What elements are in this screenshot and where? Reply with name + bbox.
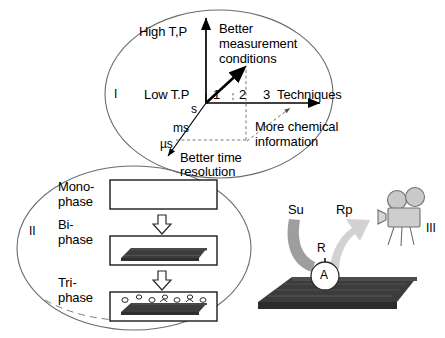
region-three-roman: III xyxy=(426,222,436,235)
triphase-label-line2: phase xyxy=(58,291,93,306)
progress-arrow xyxy=(206,69,243,103)
triphase-slab xyxy=(121,303,207,315)
axis-horizontal-label: Techniques xyxy=(277,88,342,103)
time-tick-us: µs xyxy=(160,138,173,151)
movie-camera-icon xyxy=(378,188,425,247)
monophase-label-line2: phase xyxy=(58,195,93,210)
reactant-arrow xyxy=(288,219,315,272)
intermediate-label: R xyxy=(317,242,326,255)
technique-tick-2: 2 xyxy=(239,88,246,103)
technique-tick-3: 3 xyxy=(263,88,270,103)
down-arrow-2 xyxy=(153,271,171,290)
biphase-label-line1: Bi- xyxy=(58,218,74,233)
biphase-label-line2: phase xyxy=(58,233,93,248)
down-arrow-1 xyxy=(153,215,171,234)
triphase-label-line1: Tri- xyxy=(58,276,77,291)
measurement-callout-line3: conditions xyxy=(219,52,277,67)
product-label: Rp xyxy=(336,203,352,218)
time-tick-s: s xyxy=(191,103,197,116)
chemical-callout-line1: More chemical xyxy=(255,120,338,135)
region-two-roman: II xyxy=(29,225,35,238)
axis-vertical-bottom-label: Low T.P xyxy=(144,88,189,103)
figure-root: I High T,P Low T.P Better measurement co… xyxy=(0,0,445,338)
product-arrow xyxy=(330,219,370,269)
monophase-box xyxy=(110,180,217,209)
chemical-callout-line2: information xyxy=(255,135,318,150)
monophase-label-line1: Mono- xyxy=(58,180,94,195)
time-resolution-label-line2: resolution xyxy=(180,165,235,180)
measurement-callout-line1: Better xyxy=(219,22,253,37)
reactant-label: Su xyxy=(288,203,304,218)
biphase-slab xyxy=(121,248,207,261)
time-tick-ms: ms xyxy=(173,122,189,135)
technique-tick-1: 1 xyxy=(213,88,220,103)
region-one-roman: I xyxy=(114,88,117,101)
active-site-label: A xyxy=(320,269,328,282)
measurement-callout-line2: measurement xyxy=(219,37,297,52)
axis-vertical-top-label: High T,P xyxy=(139,25,187,40)
